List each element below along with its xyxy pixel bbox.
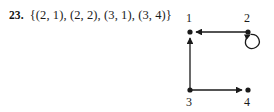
- node-4: [245, 87, 250, 92]
- relation-set-notation: {(2, 1), (2, 2), (3, 1), (3, 4)}: [30, 8, 172, 23]
- node-1: [187, 29, 192, 34]
- node-label-1: 1: [186, 11, 192, 25]
- node-label-4: 4: [244, 95, 250, 109]
- node-label-2: 2: [244, 11, 250, 25]
- edge-2-self-loop: [245, 34, 259, 48]
- node-3: [187, 87, 192, 92]
- exercise-number: 23.: [9, 9, 24, 21]
- exercise-figure-page: 23. {(2, 1), (2, 2), (3, 1), (3, 4)}: [0, 0, 274, 112]
- node-2: [245, 29, 250, 34]
- digraph-svg: 1 2 3 4: [176, 0, 274, 112]
- directed-graph-diagram: 1 2 3 4: [176, 0, 274, 112]
- exercise-line: 23. {(2, 1), (2, 2), (3, 1), (3, 4)}: [9, 8, 172, 23]
- node-label-3: 3: [186, 95, 192, 109]
